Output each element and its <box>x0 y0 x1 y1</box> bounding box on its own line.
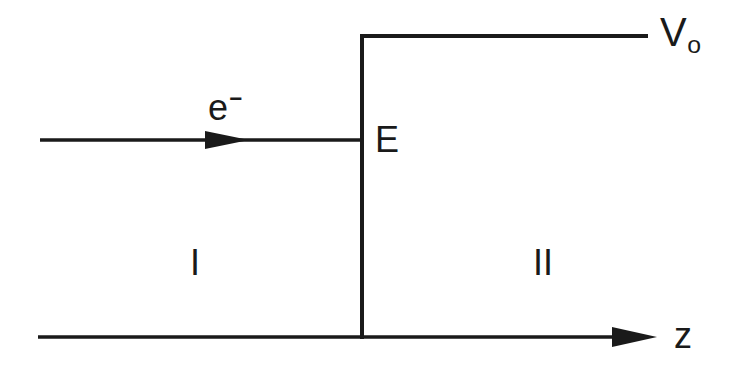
energy-label: E <box>375 122 399 158</box>
electron-label: e− <box>208 90 241 126</box>
electron-label-superscript: − <box>229 86 242 111</box>
region-one-label: I <box>190 245 200 281</box>
electron-label-base: e <box>208 87 228 128</box>
region-two-label: II <box>533 245 553 281</box>
z-axis-label: z <box>674 318 692 354</box>
barrier-height-base: V <box>660 10 687 54</box>
barrier-height-subscript: o <box>687 31 701 58</box>
diagram-canvas <box>0 0 733 371</box>
electron-direction-arrowhead <box>205 131 249 149</box>
barrier-height-label: Vo <box>660 12 700 52</box>
z-axis-arrowhead <box>612 327 657 347</box>
potential-step-diagram: Vo e− E I II z <box>0 0 733 371</box>
